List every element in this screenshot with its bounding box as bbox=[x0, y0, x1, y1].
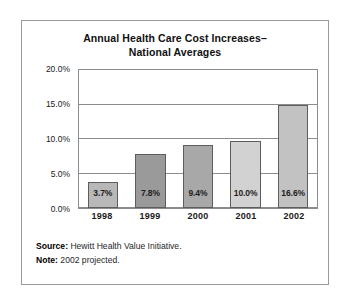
bar-value-label: 16.6% bbox=[281, 188, 305, 198]
y-axis-tick: 20.0% bbox=[46, 65, 70, 74]
chart-title-line-2: National Averages bbox=[22, 46, 328, 60]
footnote-text: 2002 projected. bbox=[58, 255, 120, 265]
bar-1998[interactable]: 3.7% bbox=[88, 182, 118, 208]
footnote-row: Note: 2002 projected. bbox=[36, 253, 314, 267]
chart-title-line-1: Annual Health Care Cost Increases– bbox=[22, 32, 328, 46]
bar-1999[interactable]: 7.8% bbox=[135, 154, 165, 208]
x-axis-tick-1998: 1998 bbox=[78, 211, 126, 221]
bar-2000[interactable]: 9.4% bbox=[183, 145, 213, 208]
x-axis-tick-2000: 2000 bbox=[174, 211, 222, 221]
bar-slot: 7.8% bbox=[127, 70, 175, 208]
bar-value-label: 10.0% bbox=[234, 188, 258, 198]
chart-title: Annual Health Care Cost Increases– Natio… bbox=[22, 32, 328, 59]
bar-slot: 10.0% bbox=[222, 70, 270, 208]
chart-card: Annual Health Care Cost Increases– Natio… bbox=[21, 20, 329, 285]
plot-area: 3.7%7.8%9.4%10.0%16.6% bbox=[78, 69, 318, 209]
bar-group: 3.7%7.8%9.4%10.0%16.6% bbox=[79, 70, 317, 208]
y-axis-tick-labels: 0.0%5.0%10.0%15.0%20.0% bbox=[34, 69, 74, 209]
bar-slot: 9.4% bbox=[174, 70, 222, 208]
footnote-row: Source: Hewitt Health Value Initiative. bbox=[36, 239, 314, 253]
footnote-text: Hewitt Health Value Initiative. bbox=[68, 241, 182, 251]
bar-value-label: 3.7% bbox=[93, 188, 112, 198]
x-axis-tick-labels: 19981999200020012002 bbox=[78, 211, 318, 221]
bar-2001[interactable]: 10.0% bbox=[230, 141, 260, 208]
bar-2002[interactable]: 16.6% bbox=[278, 105, 308, 209]
bar-value-label: 7.8% bbox=[141, 188, 160, 198]
plot-wrapper: 0.0%5.0%10.0%15.0%20.0% 3.7%7.8%9.4%10.0… bbox=[34, 69, 318, 232]
bar-slot: 3.7% bbox=[79, 70, 127, 208]
footnote-lead: Source: bbox=[36, 241, 68, 251]
footnote-lead: Note: bbox=[36, 255, 58, 265]
bar-slot: 16.6% bbox=[269, 70, 317, 208]
bar-value-label: 9.4% bbox=[188, 188, 207, 198]
y-axis-tick: 0.0% bbox=[51, 205, 70, 214]
y-axis-tick: 5.0% bbox=[51, 170, 70, 179]
x-axis-tick-2001: 2001 bbox=[222, 211, 270, 221]
x-axis-tick-1999: 1999 bbox=[126, 211, 174, 221]
chart-page: Annual Health Care Cost Increases– Natio… bbox=[0, 0, 351, 305]
x-axis-tick-2002: 2002 bbox=[270, 211, 318, 221]
y-axis-tick: 10.0% bbox=[46, 135, 70, 144]
footnotes: Source: Hewitt Health Value Initiative.N… bbox=[36, 239, 314, 267]
y-axis-tick: 15.0% bbox=[46, 100, 70, 109]
